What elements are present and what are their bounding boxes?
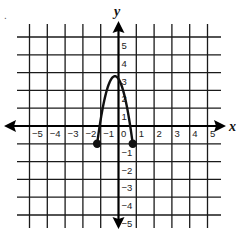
y-tick-label: −3 bbox=[122, 182, 133, 193]
coordinate-plane: −5−4−3−2−101234554321−1−2−3−4−5 x y . bbox=[0, 0, 240, 231]
endpoint-dot bbox=[93, 140, 101, 148]
corner-mark: . bbox=[4, 10, 7, 21]
x-tick-label: −1 bbox=[103, 128, 114, 139]
y-tick-label: 5 bbox=[122, 40, 127, 51]
y-tick-label: −4 bbox=[122, 200, 133, 211]
y-tick-label: 1 bbox=[122, 111, 127, 122]
x-tick-label: −2 bbox=[85, 128, 96, 139]
x-tick-label: 3 bbox=[174, 128, 179, 139]
x-axis-label: x bbox=[228, 119, 236, 134]
y-tick-label: −1 bbox=[122, 147, 133, 158]
parabola-curve bbox=[93, 76, 137, 148]
endpoint-dot bbox=[129, 140, 137, 148]
x-tick-label: 0 bbox=[121, 128, 126, 139]
x-tick-label: 1 bbox=[139, 128, 144, 139]
y-tick-label: 4 bbox=[122, 58, 127, 69]
x-tick-label: −5 bbox=[32, 128, 43, 139]
tick-labels: −5−4−3−2−101234554321−1−2−3−4−5 bbox=[32, 40, 215, 229]
x-tick-label: 2 bbox=[157, 128, 162, 139]
y-tick-label: −2 bbox=[122, 165, 133, 176]
x-tick-label: −3 bbox=[68, 128, 79, 139]
y-axis-label: y bbox=[112, 4, 121, 19]
x-tick-label: 5 bbox=[210, 128, 215, 139]
y-tick-label: −5 bbox=[122, 218, 133, 229]
x-tick-label: 4 bbox=[192, 128, 197, 139]
x-tick-label: −4 bbox=[50, 128, 61, 139]
